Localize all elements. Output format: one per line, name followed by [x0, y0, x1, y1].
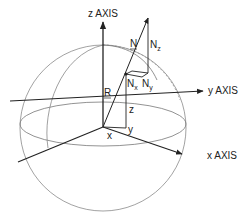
- n-vector-label: N: [130, 38, 137, 49]
- nx-ny-components: [126, 71, 148, 77]
- nz-label: Nz: [150, 39, 161, 52]
- z-axis-label: z AXIS: [88, 8, 118, 19]
- x-axis: [18, 127, 103, 162]
- radius-label: R: [104, 87, 111, 98]
- x-axis-positive: [103, 127, 182, 154]
- nx-label: Nx: [127, 78, 138, 91]
- y-axis-label: y AXIS: [208, 85, 238, 96]
- sphere-coordinate-diagram: z AXIS y AXIS x AXIS N Nz Nx Ny R z y x: [0, 0, 252, 218]
- z-coordinate-label: z: [129, 104, 134, 115]
- y-coordinate-label: y: [128, 124, 133, 135]
- x-coordinate-label: x: [107, 130, 112, 141]
- ny-label: Ny: [142, 78, 153, 92]
- x-axis-label: x AXIS: [207, 150, 237, 161]
